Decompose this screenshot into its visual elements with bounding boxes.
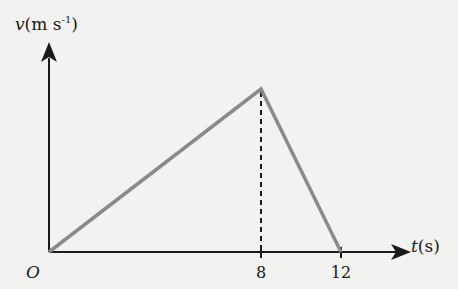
velocity-line xyxy=(49,89,341,252)
chart-canvas xyxy=(0,0,458,289)
y-unit-exponent: -1 xyxy=(62,14,72,25)
y-unit-close: ) xyxy=(71,14,78,34)
y-unit: (m s xyxy=(25,14,62,34)
y-axis-label: v(m s-1) xyxy=(15,14,78,34)
x-axis-label: t(s) xyxy=(411,236,440,256)
tick-label-12: 12 xyxy=(331,263,351,282)
x-unit: (s) xyxy=(418,236,440,256)
x-var: t xyxy=(411,236,418,256)
velocity-time-graph: v(m s-1) t(s) O 8 12 xyxy=(0,0,458,289)
y-var: v xyxy=(15,14,25,34)
origin-label: O xyxy=(26,262,40,282)
tick-label-8: 8 xyxy=(256,263,266,282)
